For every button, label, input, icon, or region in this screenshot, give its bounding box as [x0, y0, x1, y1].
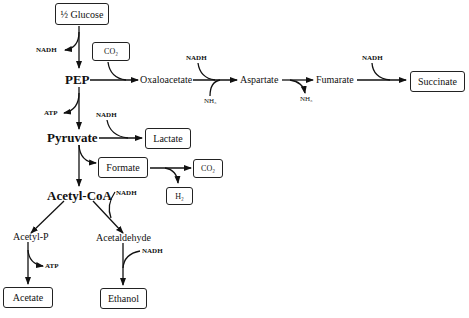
- node-succinate: Succinate: [410, 71, 465, 92]
- node-co2-input: CO₂: [92, 42, 130, 61]
- cofactor-nadh-oxaloacetate-aspartate: NADH: [186, 55, 207, 62]
- cofactor-atp-acetylp-acetate: ATP: [45, 263, 58, 270]
- cofactor-nh3-out: NH₃: [300, 96, 313, 103]
- node-glucose: ½ Glucose: [55, 3, 109, 25]
- node-aspartate: Aspartate: [240, 75, 278, 85]
- node-acetyl-p: Acetyl-P: [13, 232, 49, 242]
- node-ethanol: Ethanol: [100, 288, 147, 309]
- cofactor-nadh-pyruvate-lactate: NADH: [96, 112, 117, 119]
- node-co2-input-label: CO₂: [104, 47, 118, 56]
- cofactor-nadh-glucose-pep: NADH: [36, 47, 57, 54]
- node-oxaloacetate: Oxaloacetate: [140, 75, 192, 85]
- node-glucose-label: ½ Glucose: [61, 9, 104, 20]
- node-succinate-label: Succinate: [418, 76, 457, 87]
- node-formate: Formate: [98, 157, 148, 178]
- node-formate-label: Formate: [106, 162, 139, 173]
- node-fumarate: Fumarate: [316, 75, 354, 85]
- cofactor-nadh-acetaldehyde-ethanol: NADH: [142, 248, 163, 255]
- cofactor-atp-pep-pyruvate: ATP: [44, 110, 57, 117]
- node-h2-label: H₂: [175, 192, 184, 201]
- node-acetaldehyde: Acetaldehyde: [96, 233, 151, 243]
- cofactor-nadh-acetylcoa-acetaldehyde: NADH: [116, 190, 137, 197]
- node-co2-formate: CO₂: [193, 159, 223, 178]
- node-co2-formate-label: CO₂: [201, 164, 215, 173]
- node-acetate: Acetate: [3, 287, 53, 308]
- node-pyruvate: Pyruvate: [47, 131, 98, 144]
- node-acetate-label: Acetate: [13, 292, 44, 303]
- node-h2: H₂: [166, 187, 193, 205]
- cofactor-nh3-in: NH₃: [204, 98, 217, 105]
- node-pep: PEP: [65, 73, 90, 86]
- node-ethanol-label: Ethanol: [108, 293, 139, 304]
- cofactor-nadh-fumarate-succinate: NADH: [362, 55, 383, 62]
- node-lactate-label: Lactate: [153, 133, 182, 144]
- node-acetyl-coa: Acetyl-CoA: [47, 189, 112, 202]
- pathway-arrows: [0, 0, 469, 318]
- node-lactate: Lactate: [145, 128, 191, 149]
